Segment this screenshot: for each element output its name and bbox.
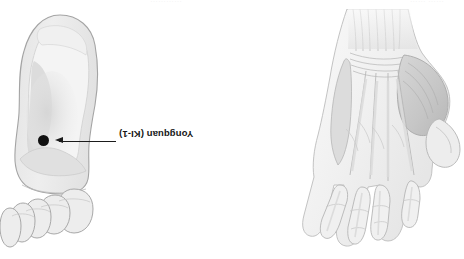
leader-line-yongquan — [59, 141, 116, 142]
panel-foot: Yongquan (KI-1) — [0, 0, 232, 259]
acupoint-label-yongquan: Yongquan (KI-1) — [119, 129, 193, 140]
acupoint-dot-yongquan — [38, 135, 49, 146]
foot-sole-illustration — [0, 9, 120, 259]
hand-palm-anatomy-illustration — [300, 9, 464, 259]
figure-canvas: ………… …… …… — [0, 0, 464, 259]
panel-hand: Laogong (PC-8) — [232, 0, 464, 259]
